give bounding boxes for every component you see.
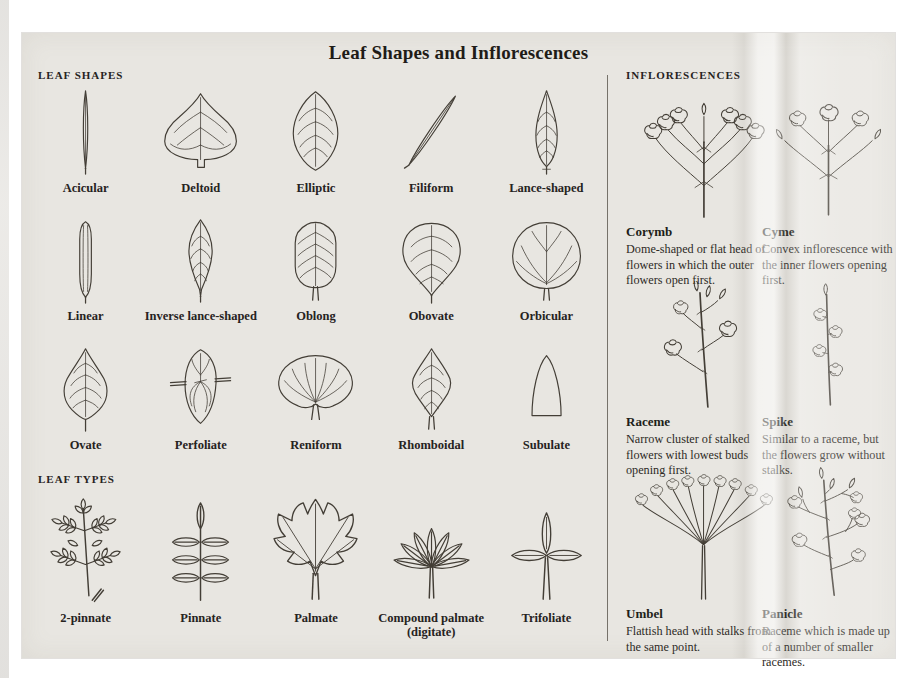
compound-palmate-leaf-illustration <box>380 495 483 607</box>
leaf-shape-label: Subulate <box>523 438 570 452</box>
reniform-leaf-illustration <box>271 342 360 434</box>
pinnate-leaf-illustration <box>149 495 252 607</box>
leaf-type-sublabel: (digitate) <box>407 625 456 639</box>
inflorescence-description: Raceme which is made up of a number of s… <box>762 624 895 671</box>
inflorescence-cyme: Cyme Convex inflorescence with the inner… <box>762 87 895 289</box>
rhomboidal-leaf-illustration <box>387 342 476 434</box>
acicular-leaf-illustration <box>41 85 130 177</box>
panicle-figure <box>762 461 895 601</box>
corymb-illustration <box>635 91 773 219</box>
leaf-shape-label: Deltoid <box>181 181 220 195</box>
leaf-shape-subulate: Subulate <box>489 342 604 452</box>
leaf-shape-ovate: Ovate <box>28 342 143 452</box>
leaf-shape-label: Inverse lance-shaped <box>145 309 257 323</box>
leaf-type-label: Palmate <box>294 611 338 625</box>
leaf-shape-label: Obovate <box>409 309 454 323</box>
corymb-figure <box>626 87 782 219</box>
leaf-shape-label: Filiform <box>409 181 453 195</box>
leaf-shape-label: Acicular <box>63 181 109 195</box>
leaf-shape-label: Orbicular <box>520 309 573 323</box>
oblong-leaf-illustration <box>271 213 360 305</box>
inflorescences-heading: INFLORESCENCES <box>626 69 741 81</box>
orbicular-leaf-illustration <box>502 213 591 305</box>
inverse-lance-shaped-leaf-illustration <box>156 213 245 305</box>
leaf-shape-reniform: Reniform <box>258 342 373 452</box>
leaf-type-trifoliate: Trifoliate <box>489 495 604 640</box>
leaf-shape-label: Elliptic <box>297 181 336 195</box>
palmate-leaf-illustration <box>264 495 367 607</box>
inflorescence-name: Panicle <box>762 606 895 622</box>
leaf-type-compound-palmate: Compound palmate (digitate) <box>374 495 489 640</box>
inflorescence-name: Spike <box>762 414 895 430</box>
inflorescence-corymb: Corymb Dome-shaped or flat head of flowe… <box>626 87 782 289</box>
inflorescence-name: Raceme <box>626 414 782 430</box>
deltoid-leaf-illustration <box>156 85 245 177</box>
inflorescence-description: Flattish head with stalks from the same … <box>626 624 782 655</box>
umbel-figure <box>626 461 782 601</box>
leaf-shape-deltoid: Deltoid <box>143 85 258 195</box>
leaf-shape-label: Ovate <box>70 438 102 452</box>
leaf-shape-label: Oblong <box>296 309 336 323</box>
leaf-type-pinnate: Pinnate <box>143 495 258 640</box>
book-page: Leaf Shapes and Inflorescences LEAF SHAP… <box>22 33 895 658</box>
two-pinnate-leaf-illustration <box>34 495 137 607</box>
panicle-illustration <box>762 465 895 601</box>
leaf-shape-label: Rhomboidal <box>398 438 464 452</box>
leaf-shape-label: Linear <box>68 309 104 323</box>
inflorescence-name: Cyme <box>762 224 895 240</box>
inflorescence-raceme: Raceme Narrow cluster of stalked flowers… <box>626 277 782 479</box>
leaf-shape-label: Perfoliate <box>175 438 227 452</box>
leaf-types-heading: LEAF TYPES <box>38 473 115 485</box>
spike-illustration <box>762 281 895 409</box>
lance-shaped-leaf-illustration <box>502 85 591 177</box>
elliptic-leaf-illustration <box>271 85 360 177</box>
photo-left-edge <box>0 0 9 678</box>
leaf-type-2-pinnate: 2-pinnate <box>28 495 143 640</box>
leaf-type-label: Pinnate <box>180 611 221 625</box>
inflorescence-spike: Spike Similar to a raceme, but the flowe… <box>762 277 895 479</box>
perfoliate-leaf-illustration <box>156 342 245 434</box>
page-title: Leaf Shapes and Inflorescences <box>22 42 895 64</box>
inflorescence-panicle: Panicle Raceme which is made up of a num… <box>762 461 895 671</box>
leaf-type-label: Compound palmate <box>378 611 484 625</box>
raceme-figure <box>626 277 782 409</box>
leaf-shape-obovate: Obovate <box>374 213 489 323</box>
raceme-illustration <box>635 281 773 409</box>
leaf-types-grid: 2-pinnate Pinnate Palmate <box>28 495 604 640</box>
leaf-shapes-heading: LEAF SHAPES <box>38 69 123 81</box>
leaf-shape-oblong: Oblong <box>258 213 373 323</box>
cyme-figure <box>762 87 895 219</box>
linear-leaf-illustration <box>41 213 130 305</box>
trifoliate-leaf-illustration <box>495 495 598 607</box>
subulate-leaf-illustration <box>502 342 591 434</box>
leaf-shape-linear: Linear <box>28 213 143 323</box>
spike-figure <box>762 277 895 409</box>
leaf-type-label: 2-pinnate <box>60 611 111 625</box>
filiform-leaf-illustration <box>387 85 476 177</box>
ovate-leaf-illustration <box>41 342 130 434</box>
inflorescence-umbel: Umbel Flattish head with stalks from the… <box>626 461 782 655</box>
leaf-shapes-grid: Acicular Deltoid Elliptic <box>28 85 604 452</box>
leaf-shape-filiform: Filiform <box>374 85 489 195</box>
leaf-shape-label: Lance-shaped <box>509 181 583 195</box>
leaf-shape-label: Reniform <box>290 438 341 452</box>
inflorescence-name: Umbel <box>626 606 782 622</box>
leaf-shape-acicular: Acicular <box>28 85 143 195</box>
cyme-illustration <box>762 91 895 219</box>
obovate-leaf-illustration <box>387 213 476 305</box>
leaf-shape-perfoliate: Perfoliate <box>143 342 258 452</box>
leaf-shape-lance-shaped: Lance-shaped <box>489 85 604 195</box>
leaf-shape-orbicular: Orbicular <box>489 213 604 323</box>
leaf-type-palmate: Palmate <box>258 495 373 640</box>
umbel-illustration <box>628 465 779 601</box>
leaf-shape-elliptic: Elliptic <box>258 85 373 195</box>
leaf-shape-rhomboidal: Rhomboidal <box>374 342 489 452</box>
leaf-shape-inverse-lance-shaped: Inverse lance-shaped <box>143 213 258 323</box>
leaf-type-label: Trifoliate <box>522 611 572 625</box>
inflorescence-name: Corymb <box>626 224 782 240</box>
section-divider <box>607 75 608 641</box>
